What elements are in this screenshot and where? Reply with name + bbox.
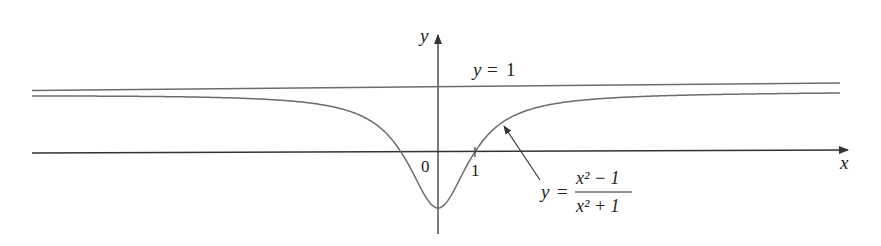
graph-canvas: y x 0 1 y = 1 y = x² − 1 x² + 1 <box>0 0 881 246</box>
svg-text:1: 1 <box>506 59 516 80</box>
x-axis-label: x <box>839 152 849 173</box>
svg-text:=: = <box>487 59 498 80</box>
pointer-arrow <box>504 126 540 180</box>
origin-label: 0 <box>421 157 430 176</box>
function-denominator: x² + 1 <box>575 196 620 216</box>
x-tick-label-1: 1 <box>471 161 480 180</box>
function-numerator: x² − 1 <box>575 168 620 188</box>
svg-text:y: y <box>539 181 550 202</box>
asymptote-label: y = 1 <box>471 59 516 80</box>
svg-text:=: = <box>557 181 568 202</box>
y-axis-label: y <box>418 25 429 46</box>
x-axis <box>32 150 848 153</box>
function-label: y = x² − 1 x² + 1 <box>539 168 632 216</box>
svg-text:y: y <box>471 59 482 80</box>
asymptote-line <box>32 83 840 91</box>
